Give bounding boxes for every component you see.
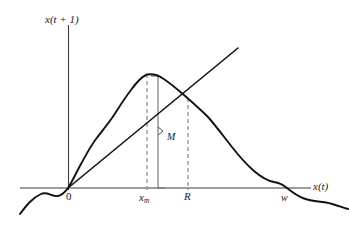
replacement-line [68, 48, 238, 188]
tick-label-R: R [184, 191, 191, 202]
plot-canvas [0, 0, 349, 234]
m-bracket-arrow [158, 127, 163, 135]
annotation-label-M: M [167, 132, 175, 142]
tick-label-w: w [281, 193, 288, 203]
x-axis-label: x(t) [313, 181, 328, 192]
tick-label-xm: xm [139, 192, 149, 203]
tick-label-xm-sub: m [144, 196, 149, 205]
figure-container: x(t + 1) x(t) 0 xm R w M [0, 0, 349, 234]
y-axis-label: x(t + 1) [45, 14, 79, 25]
origin-label: 0 [66, 191, 72, 202]
